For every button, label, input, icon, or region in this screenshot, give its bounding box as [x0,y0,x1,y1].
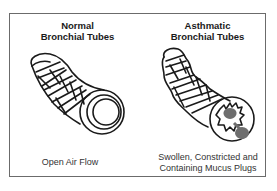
asthmatic-title-line2: Bronchial Tubes [150,31,265,42]
asthmatic-caption-line2: Containing Mucus Plugs [148,163,268,174]
normal-panel-caption: Open Air Flow [20,157,120,168]
asthmatic-caption-line1: Swollen, Constricted and [148,152,268,163]
asthmatic-title-line1: Asthmatic [150,20,265,31]
normal-title-line2: Bronchial Tubes [20,31,135,42]
mucus-plug-icon [150,45,270,155]
asthmatic-panel-caption: Swollen, Constricted and Containing Mucu… [148,152,268,174]
normal-panel-title: Normal Bronchial Tubes [20,20,135,42]
normal-title-line1: Normal [20,20,135,31]
normal-caption-line1: Open Air Flow [20,157,120,168]
asthmatic-panel-title: Asthmatic Bronchial Tubes [150,20,265,42]
normal-bronchial-tube-illustration [20,48,140,158]
